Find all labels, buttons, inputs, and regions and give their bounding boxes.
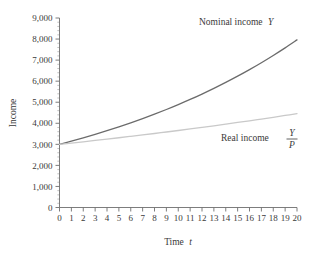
- y-tick-label: 7,000: [32, 55, 53, 65]
- y-tick-label: 4,000: [32, 118, 53, 128]
- x-tick-label: 10: [174, 213, 184, 223]
- x-axis-title-text: Time: [164, 237, 184, 247]
- x-tick-label: 8: [152, 213, 157, 223]
- real-income-label-text: Real income: [221, 133, 269, 143]
- x-tick-label: 0: [57, 213, 62, 223]
- x-tick-label: 12: [198, 213, 207, 223]
- y-tick-label: 6,000: [32, 76, 53, 86]
- x-tick-label: 5: [117, 213, 122, 223]
- x-tick-label: 4: [105, 213, 110, 223]
- x-tick-label: 11: [186, 213, 195, 223]
- x-axis-major-ticks: [60, 208, 298, 212]
- x-tick-label: 14: [221, 213, 231, 223]
- x-tick-label: 13: [209, 213, 219, 223]
- y-tick-label: 1,000: [32, 182, 53, 192]
- x-tick-label: 3: [93, 213, 98, 223]
- x-tick-label: 1: [69, 213, 74, 223]
- x-axis-tick-labels: 01234567891011121314151617181920: [57, 213, 302, 223]
- y-tick-label: 8,000: [32, 34, 53, 44]
- x-tick-label: 18: [269, 213, 279, 223]
- x-tick-label: 6: [129, 213, 134, 223]
- x-tick-label: 17: [257, 213, 267, 223]
- real-income-label-denominator: P: [288, 140, 295, 150]
- x-tick-label: 19: [281, 213, 291, 223]
- y-tick-label: 0: [48, 203, 53, 213]
- y-axis-title: Income: [8, 99, 18, 128]
- x-tick-label: 9: [164, 213, 169, 223]
- x-tick-label: 16: [245, 213, 255, 223]
- x-tick-label: 15: [233, 213, 243, 223]
- y-tick-label: 5,000: [32, 97, 53, 107]
- nominal-income-label-text: Nominal income: [199, 17, 263, 27]
- y-tick-label: 2,000: [32, 161, 53, 171]
- x-tick-label: 2: [81, 213, 86, 223]
- x-tick-label: 20: [293, 213, 303, 223]
- y-tick-label: 9,000: [32, 13, 53, 23]
- income-growth-chart: 01,0002,0003,0004,0005,0006,0007,0008,00…: [0, 0, 314, 260]
- y-tick-label: 3,000: [32, 140, 53, 150]
- nominal-income-label: Nominal income Y: [199, 17, 275, 27]
- x-tick-label: 7: [140, 213, 145, 223]
- x-axis-title-symbol: t: [189, 237, 192, 247]
